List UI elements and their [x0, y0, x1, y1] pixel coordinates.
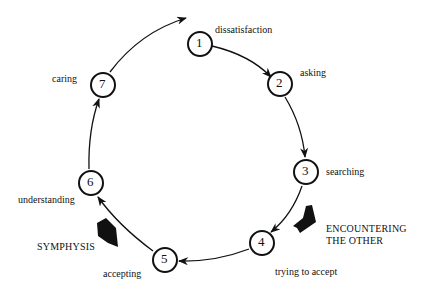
encountering-arrow-icon [293, 205, 316, 233]
arrow-2-3 [285, 97, 305, 157]
label-dissatisfaction: dissatisfaction [215, 24, 272, 35]
node-7-number: 7 [99, 78, 106, 89]
label-encountering-line2: THE OTHER [326, 235, 383, 246]
arrow-6-7 [89, 99, 99, 169]
node-1-number: 1 [196, 37, 203, 48]
arrow-7-top [110, 18, 186, 72]
node-6-number: 6 [87, 176, 94, 187]
node-4-number: 4 [258, 236, 265, 247]
label-understanding: understanding [18, 194, 75, 205]
label-asking: asking [300, 67, 326, 78]
label-accepting: accepting [103, 268, 141, 279]
node-3-number: 3 [302, 165, 309, 176]
cycle-diagram [0, 0, 423, 299]
node-2-number: 2 [276, 77, 283, 88]
arrow-4-5 [179, 249, 249, 261]
label-encountering-line1: ENCOUNTERING [326, 223, 407, 234]
label-symphysis: SYMPHYSIS [37, 241, 95, 252]
arrow-1-2 [212, 46, 271, 77]
symphysis-arrow-icon [97, 218, 118, 247]
label-searching: searching [326, 166, 364, 177]
node-5-number: 5 [161, 253, 168, 264]
label-caring: caring [52, 73, 77, 84]
label-trying-to-accept: trying to accept [275, 266, 337, 277]
